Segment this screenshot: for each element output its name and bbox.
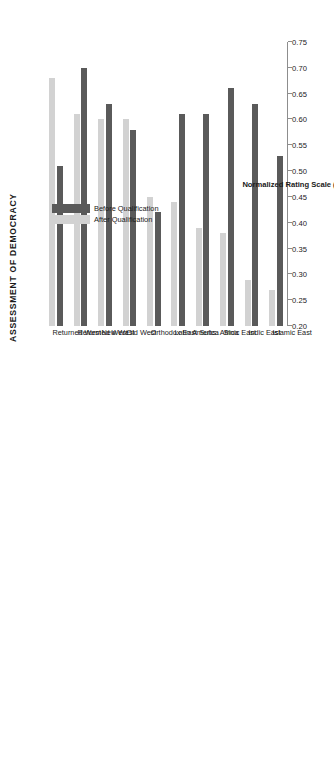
axis-tick-label: 0.65	[292, 89, 307, 98]
bar-after	[49, 78, 55, 326]
category-label: Islamic East	[272, 328, 311, 337]
legend-swatch-after	[52, 215, 90, 224]
chart-title-assessment: ASSESSMENT OF DEMOCRACY	[8, 193, 18, 342]
axis-tick-label: 0.50	[292, 167, 307, 176]
axis-tick-label: 0.25	[292, 296, 307, 305]
axis-tick-label: 0.60	[292, 115, 307, 124]
chart-page: ASSESSMENT OF DEMOCRACY 0.200.250.300.35…	[0, 0, 334, 765]
bar-before	[228, 88, 234, 326]
bar-before	[130, 130, 136, 326]
axis-tick-label: 0.35	[292, 244, 307, 253]
legend-label-before: Before Qualification	[94, 204, 159, 213]
bar-before	[57, 166, 63, 326]
bar-after	[196, 228, 202, 326]
axis-tick-label: 0.75	[292, 38, 307, 47]
axis-tick-label: 0.45	[292, 192, 307, 201]
bar-after	[171, 202, 177, 326]
bar-before	[252, 104, 258, 326]
legend-swatch-before	[52, 204, 90, 213]
bar-before	[81, 68, 87, 326]
chart-panel-assessment: ASSESSMENT OF DEMOCRACY 0.200.250.300.35…	[0, 0, 334, 388]
value-axis-title: Normalized Rating Scale (minimum 0, maxi…	[242, 180, 334, 189]
axis-tick-label: 0.30	[292, 270, 307, 279]
bar-before	[179, 114, 185, 326]
axis-tick-label: 0.55	[292, 141, 307, 150]
bar-before	[203, 114, 209, 326]
axis-tick-label: 0.70	[292, 63, 307, 72]
bar-after	[245, 280, 251, 326]
bar-before	[155, 212, 161, 326]
chart-panel-notion: NOTION OF DEMOCRACY 0.500.550.600.650.70…	[0, 388, 334, 765]
axis-tick-label: 0.40	[292, 218, 307, 227]
bar-after	[269, 290, 275, 326]
plot-area-assessment: 0.200.250.300.350.400.450.500.550.600.65…	[44, 42, 288, 326]
bar-after	[220, 233, 226, 326]
legend-label-after: After Qualification	[94, 215, 152, 224]
chart-stage-assessment: ASSESSMENT OF DEMOCRACY 0.200.250.300.35…	[0, 0, 312, 352]
